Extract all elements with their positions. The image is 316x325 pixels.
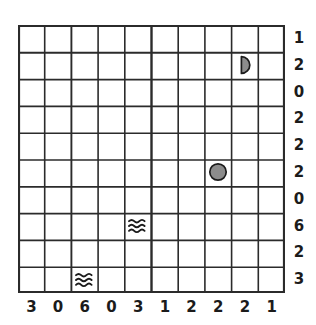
- column-clue-8: 2: [205, 298, 232, 316]
- column-clue-7: 2: [178, 298, 205, 316]
- column-clue-4: 0: [98, 298, 125, 316]
- column-clue-5: 3: [125, 298, 152, 316]
- row-clue-5: 2: [288, 138, 310, 154]
- column-clue-2: 0: [45, 298, 72, 316]
- water-waves-icon[interactable]: [71, 266, 98, 293]
- row-clue-3: 0: [288, 84, 310, 100]
- row-clue-10: 3: [288, 272, 310, 288]
- water-waves-icon[interactable]: [125, 213, 152, 240]
- row-clue-6: 2: [288, 164, 310, 180]
- column-clue-9: 2: [232, 298, 259, 316]
- column-clue-1: 3: [18, 298, 45, 316]
- column-clue-10: 1: [258, 298, 285, 316]
- column-clue-3: 6: [71, 298, 98, 316]
- column-clue-6: 1: [152, 298, 179, 316]
- row-clue-2: 2: [288, 57, 310, 73]
- half-circle-icon[interactable]: [232, 52, 259, 79]
- row-clue-7: 0: [288, 191, 310, 207]
- row-clue-9: 2: [288, 245, 310, 261]
- row-clue-4: 2: [288, 111, 310, 127]
- puzzle-container: 1202220623 3060312221: [0, 0, 316, 325]
- filled-circle-icon[interactable]: [205, 159, 232, 186]
- row-clue-8: 6: [288, 218, 310, 234]
- puzzle-grid[interactable]: [18, 25, 285, 293]
- row-clue-1: 1: [288, 30, 310, 46]
